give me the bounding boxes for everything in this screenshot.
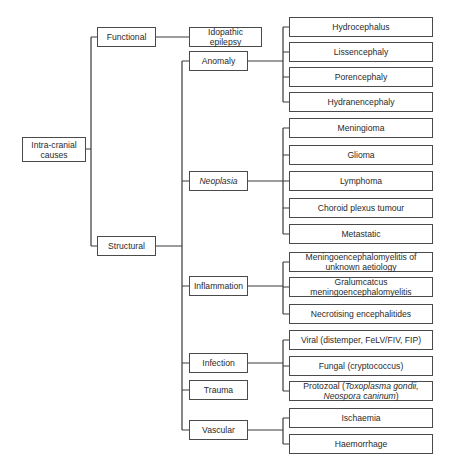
leaf-glioma: Glioma <box>289 145 433 165</box>
leaf-viral: Viral (distemper, FeLV/FIV, FIP) <box>289 330 433 350</box>
leaf-hydranencephaly: Hydranencephaly <box>289 92 433 112</box>
leaf-lymphoma: Lymphoma <box>289 171 433 191</box>
leaf-necrotising-encephalitides: Necrotising encephalitides <box>289 304 433 324</box>
node-label: Ischaemia <box>341 413 380 423</box>
node-label: Hydrocephalus <box>332 22 389 32</box>
node-label: Trauma <box>204 385 233 395</box>
node-label: Metastatic <box>341 229 380 239</box>
leaf-ischaemia: Ischaemia <box>289 408 433 428</box>
node-label: Haemorrhage <box>335 439 388 449</box>
leaf-granulomatous-me: Gralumcatcus meningoencephalomyelitis <box>289 277 433 297</box>
node-label: Structural <box>108 241 145 251</box>
node-label: Gralumcatcus meningoencephalomyelitis <box>292 277 430 297</box>
node-label: Glioma <box>347 150 374 160</box>
leaf-lissencephaly: Lissencephaly <box>289 42 433 62</box>
leaf-porencephaly: Porencephaly <box>289 67 433 87</box>
node-label: Protozoal (Toxoplasma gondii, Neospora c… <box>292 381 430 401</box>
node-label: Fungal (cryptococcus) <box>319 361 404 371</box>
leaf-haemorrhage: Haemorrhage <box>289 434 433 454</box>
node-label: Meningioma <box>338 123 385 133</box>
leaf-protozoal: Protozoal (Toxoplasma gondii, Neospora c… <box>289 381 433 401</box>
node-label: Meningoencephalomyelitis of unknown aeti… <box>292 252 430 272</box>
leaf-hydrocephalus: Hydrocephalus <box>289 17 433 37</box>
node-label: Infection <box>202 358 235 368</box>
leaf-meningioma: Meningioma <box>289 118 433 138</box>
node-label: Idopathic epilepsy <box>192 27 259 47</box>
node-infection: Infection <box>189 353 248 373</box>
node-label: Neoplasia <box>199 176 237 186</box>
node-label: Lymphoma <box>340 176 382 186</box>
node-intra-cranial-causes: Intra-cranial causes <box>22 137 86 162</box>
leaf-fungal: Fungal (cryptococcus) <box>289 356 433 376</box>
leaf-choroid-plexus-tumour: Choroid plexus tumour <box>289 198 433 218</box>
leaf-mua: Meningoencephalomyelitis of unknown aeti… <box>289 252 433 272</box>
node-label: Viral (distemper, FeLV/FIV, FIP) <box>301 335 421 345</box>
node-label: Choroid plexus tumour <box>318 203 404 213</box>
node-label: Anomaly <box>202 56 235 66</box>
node-inflammation: Inflammation <box>189 276 248 296</box>
protozoal-prefix: Protozoal ( <box>303 381 345 391</box>
protozoal-suffix: ) <box>396 391 399 401</box>
node-structural: Structural <box>97 236 156 256</box>
node-label: Vascular <box>202 425 235 435</box>
node-label: Lissencephaly <box>334 47 388 57</box>
node-label: Intra-cranial causes <box>25 140 83 160</box>
node-neoplasia: Neoplasia <box>189 171 248 191</box>
node-label: Functional <box>107 32 147 42</box>
node-label: Inflammation <box>194 281 243 291</box>
node-trauma: Trauma <box>189 380 248 400</box>
node-label: Hydranencephaly <box>328 97 395 107</box>
node-anomaly: Anomaly <box>189 51 248 71</box>
node-label: Necrotising encephalitides <box>311 309 411 319</box>
node-idiopathic-epilepsy: Idopathic epilepsy <box>189 27 262 47</box>
leaf-metastatic: Metastatic <box>289 224 433 244</box>
node-functional: Functional <box>97 27 156 47</box>
node-vascular: Vascular <box>189 420 248 440</box>
node-label: Porencephaly <box>335 72 388 82</box>
